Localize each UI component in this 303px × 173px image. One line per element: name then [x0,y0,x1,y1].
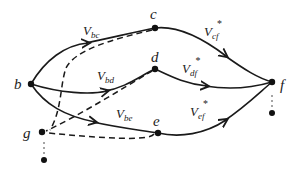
edge-d-f [155,69,272,88]
label-node-g: g [23,125,31,141]
node-b [28,81,34,87]
node-c [152,25,158,31]
label-edge-bc: Vbc [83,23,99,40]
dashed-edge-e-g [48,133,154,138]
node-d [152,66,158,72]
node-g [39,129,45,135]
label-edge-ef: Vef* [190,98,207,121]
label-edge-cf: Vcf* [204,18,221,41]
label-edge-df: Vdf* [182,55,200,78]
edge-e-f [158,82,272,135]
label-edge-bd: Vbd [97,68,114,85]
label-node-e: e [153,113,160,129]
continuation-g [41,142,47,163]
continuation-f [269,95,275,116]
network-diagram: b c d e f g Vbc Vbd Vbe Vcf* Vdf* Vef* [0,0,303,173]
edge-b-d [31,69,155,93]
edge-b-e [31,84,158,133]
node-e [155,130,161,136]
label-edge-be: Vbe [116,106,132,123]
label-node-b: b [14,76,22,92]
label-node-f: f [280,77,286,93]
label-node-c: c [150,6,157,22]
label-node-d: d [151,49,159,65]
node-f [269,79,275,85]
